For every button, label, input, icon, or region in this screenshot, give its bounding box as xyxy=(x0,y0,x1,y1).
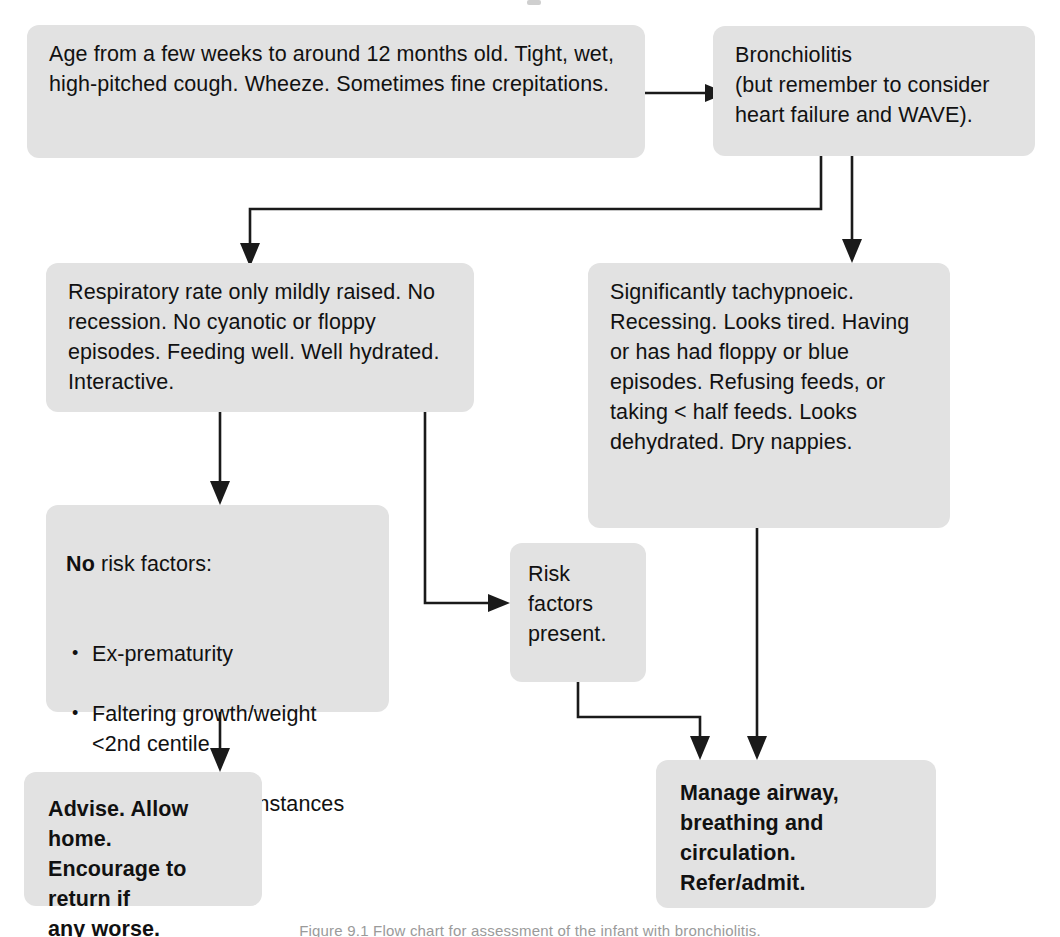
list-item: Ex-prematurity xyxy=(66,639,375,669)
edge-diagnosis-to-mild xyxy=(240,156,821,267)
node-diagnosis[interactable]: Bronchiolitis (but remember to consider … xyxy=(713,26,1035,156)
node-presentation[interactable]: Age from a few weeks to around 12 months… xyxy=(27,25,645,158)
no-risk-lead: No xyxy=(66,552,95,576)
node-mild-assessment[interactable]: Respiratory rate only mildly raised. No … xyxy=(46,263,474,412)
edge-severe-to-manage xyxy=(747,528,767,760)
node-risk-factors-present[interactable]: Risk factors present. xyxy=(510,543,646,682)
no-risk-heading: No risk factors: xyxy=(66,549,375,579)
risk-factor-text: Ex-prematurity xyxy=(92,642,233,666)
flowchart-canvas: Age from a few weeks to around 12 months… xyxy=(0,0,1060,937)
node-no-risk-factors[interactable]: No risk factors: Ex-prematurity Falterin… xyxy=(46,505,389,712)
node-manage-abc[interactable]: Manage airway, breathing and circulation… xyxy=(656,760,936,908)
risk-factor-text: Faltering growth/weight xyxy=(92,702,317,726)
node-severe-assessment[interactable]: Significantly tachypnoeic. Recessing. Lo… xyxy=(588,263,950,528)
edge-mild-to-risk-present xyxy=(425,412,510,612)
no-risk-lead-rest: risk factors: xyxy=(95,552,212,576)
risk-factor-text-cont: <2nd centile xyxy=(92,729,375,759)
page-artifact-mark xyxy=(527,0,541,5)
node-advise-home[interactable]: Advise. Allow home. Encourage to return … xyxy=(24,772,262,906)
edge-diagnosis-to-severe xyxy=(842,156,862,263)
edge-risk-present-to-manage xyxy=(578,682,710,760)
figure-caption: Figure 9.1 Flow chart for assessment of … xyxy=(0,922,1060,937)
list-item: Faltering growth/weight<2nd centile xyxy=(66,699,375,759)
edge-mild-to-no-risk xyxy=(210,412,230,505)
